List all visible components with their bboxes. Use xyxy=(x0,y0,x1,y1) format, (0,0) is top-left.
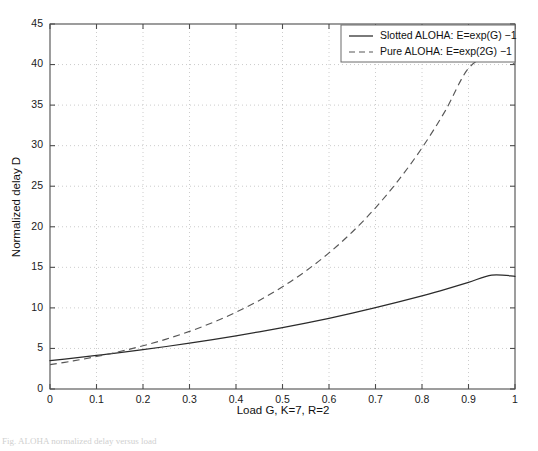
figure-container: 05101520253035404500.10.20.30.40.50.60.7… xyxy=(0,0,538,451)
caption-strip: Fig. ALOHA normalized delay versus load xyxy=(0,437,538,451)
series-line-2 xyxy=(50,56,515,364)
x-tick-label: 0 xyxy=(47,393,53,405)
x-tick-label: 0.1 xyxy=(89,393,104,405)
x-tick-label: 1 xyxy=(512,393,518,405)
axes-frame xyxy=(50,24,515,389)
x-axis-title: Load G, K=7, R=2 xyxy=(237,404,330,416)
x-tick-label: 0.3 xyxy=(182,393,197,405)
series-line-1 xyxy=(50,275,515,361)
data-series xyxy=(50,56,515,364)
tick-marks xyxy=(50,24,515,389)
x-tick-label: 0.2 xyxy=(136,393,151,405)
y-tick-label: 5 xyxy=(37,341,43,353)
y-tick-label: 45 xyxy=(31,17,43,29)
y-tick-label: 10 xyxy=(31,301,43,313)
y-tick-label: 15 xyxy=(31,260,43,272)
y-tick-label: 20 xyxy=(31,220,43,232)
x-tick-label: 0.9 xyxy=(461,393,476,405)
y-tick-label: 30 xyxy=(31,138,43,150)
y-tick-label: 40 xyxy=(31,57,43,69)
y-tick-label: 0 xyxy=(37,382,43,394)
y-axis-title: Normalized delay D xyxy=(10,157,22,257)
x-tick-label: 0.7 xyxy=(368,393,383,405)
x-tick-label: 0.8 xyxy=(415,393,430,405)
y-tick-label: 35 xyxy=(31,98,43,110)
chart-canvas: 05101520253035404500.10.20.30.40.50.60.7… xyxy=(0,0,538,451)
y-tick-label: 25 xyxy=(31,179,43,191)
legend-label-1: Slotted ALOHA: E=exp(G) −1 xyxy=(380,29,517,41)
chart-legend: Slotted ALOHA: E=exp(G) −1Pure ALOHA: E=… xyxy=(341,25,517,62)
caption-fragment: Fig. ALOHA normalized delay versus load xyxy=(2,437,156,446)
legend-label-2: Pure ALOHA: E=exp(2G) −1 xyxy=(380,45,512,57)
tick-labels: 05101520253035404500.10.20.30.40.50.60.7… xyxy=(31,17,518,405)
grid-lines xyxy=(50,24,515,389)
